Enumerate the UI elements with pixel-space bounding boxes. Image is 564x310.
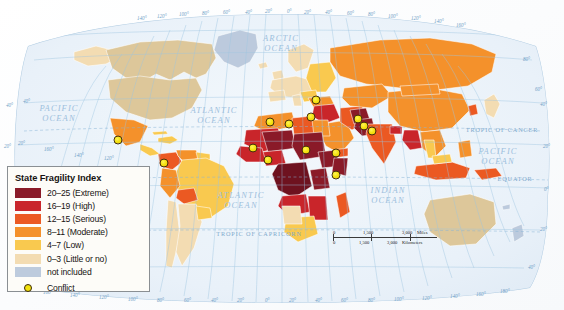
conflict-marker-nigeria[interactable] [264,156,273,165]
map-figure: PACIFICOCEAN ATLANTICOCEAN ARCTICOCEAN A… [0,0,564,310]
legend-swatch-little-or-no [15,254,41,264]
conflict-marker-yemen[interactable] [332,149,341,158]
country-namibia-botswana [282,206,302,224]
conflict-marker-turkey[interactable] [312,96,321,105]
country-spain-portugal [268,90,286,102]
conflict-marker-mali[interactable] [249,144,258,153]
scale-km-tick-0: 0 [333,240,335,245]
country-paraguay-uruguay [196,206,212,220]
legend-swatch-serious [15,214,41,224]
conflict-marker-colombia[interactable] [160,159,169,168]
scale-km-unit: Kilometers [402,240,422,245]
country-malaysia [432,154,452,164]
legend-panel: State Fragility Index 20–25 (Extreme) 16… [7,166,150,292]
scale-km-tick-2: 3,000 [387,240,397,245]
country-mali-niger [262,130,296,152]
legend-item-not-included[interactable]: not included [15,265,142,278]
legend-label-conflict: Conflict [47,283,74,293]
legend-swatch-low [15,240,41,250]
country-italy [292,94,302,106]
scale-km-tick-1: 1,500 [359,240,369,245]
scale-miles-unit: Miles [417,230,427,235]
conflict-icon [15,284,41,292]
country-cuba [152,131,168,135]
legend-swatch-not-included [15,267,41,277]
legend-label-moderate: 8–11 (Moderate) [47,227,108,237]
legend-label-little-or-no: 0–3 (Little or no) [47,254,107,264]
legend-label-extreme: 20–25 (Extreme) [47,188,109,198]
legend-item-extreme[interactable]: 20–25 (Extreme) [15,186,142,199]
legend-item-low[interactable]: 4–7 (Low) [15,239,142,252]
legend-title: State Fragility Index [15,173,142,183]
country-mongolia [400,84,440,96]
scale-bar: 0 1,500 3,000 Miles 0 1,500 3,000 Kilome… [333,228,437,247]
conflict-marker-algeria[interactable] [266,118,275,127]
legend-item-moderate[interactable]: 8–11 (Moderate) [15,226,142,239]
legend-label-high: 16–19 (High) [47,201,95,211]
conflict-marker-syria[interactable] [307,113,316,122]
legend-label-serious: 12–15 (Serious) [47,214,106,224]
legend-swatch-moderate [15,227,41,237]
conflict-marker-india[interactable] [368,127,377,136]
legend-swatch-extreme [15,188,41,198]
conflict-marker-sudan[interactable] [302,146,311,155]
conflict-marker-mexico[interactable] [114,136,123,145]
legend-item-conflict[interactable]: Conflict [15,281,142,294]
legend-label-not-included: not included [47,267,92,277]
legend-item-little-or-no[interactable]: 0–3 (Little or no) [15,252,142,265]
conflict-marker-somalia[interactable] [332,171,341,180]
legend-swatch-high [15,201,41,211]
scale-bar-miles-labels: 0 1,500 3,000 Miles [333,228,437,237]
legend-item-high[interactable]: 16–19 (High) [15,199,142,212]
legend-item-serious[interactable]: 12–15 (Serious) [15,212,142,225]
scale-bar-km-labels: 0 1,500 3,000 Kilometers [333,238,437,247]
legend-label-low: 4–7 (Low) [47,240,84,250]
conflict-marker-libya-chad[interactable] [285,120,294,129]
